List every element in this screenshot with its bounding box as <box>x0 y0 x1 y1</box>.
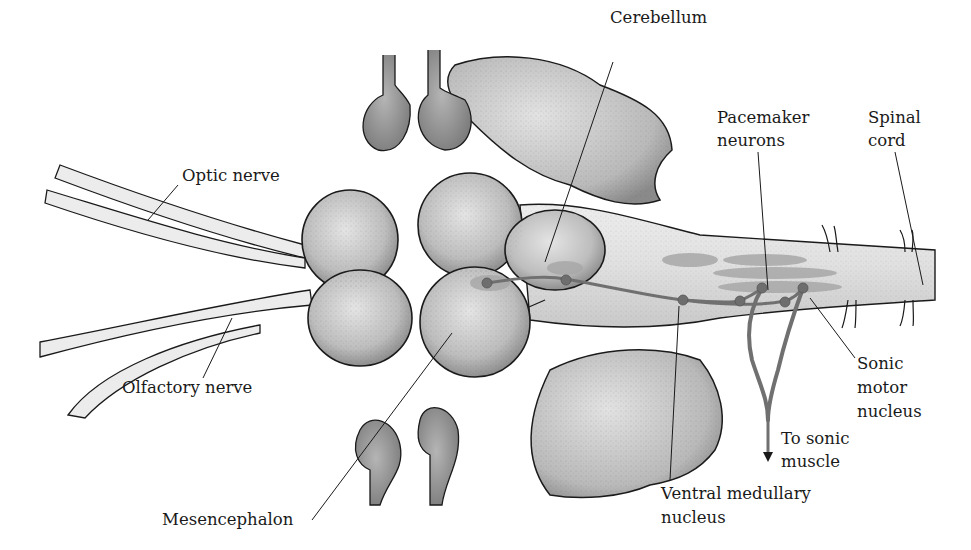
label-optic-nerve: Optic nerve <box>182 166 280 186</box>
label-pacemaker-line2: neurons <box>717 131 785 151</box>
label-ventral-medullary-line1: Ventral medullary <box>661 484 811 504</box>
label-sonic-motor-line3: nucleus <box>857 402 922 422</box>
brain-diagram: Cerebellum Pacemaker neurons Spinal cord… <box>0 0 971 550</box>
label-spinal-line1: Spinal <box>868 108 921 128</box>
label-pacemaker-line1: Pacemaker <box>717 108 809 128</box>
arrow-head <box>763 452 773 462</box>
label-ventral-medullary-line2: nucleus <box>661 508 726 528</box>
label-mesencephalon: Mesencephalon <box>162 510 293 530</box>
label-spinal-line2: cord <box>868 131 906 151</box>
label-olfactory-nerve: Olfactory nerve <box>122 378 252 398</box>
label-cerebellum: Cerebellum <box>610 8 707 28</box>
label-sonic-motor-line2: motor <box>857 378 907 398</box>
label-to-muscle-line2: muscle <box>781 452 840 472</box>
olfactory-nerve-shape <box>40 290 312 418</box>
label-sonic-motor-line1: Sonic <box>857 354 903 374</box>
label-to-muscle-line1: To sonic <box>781 429 849 449</box>
